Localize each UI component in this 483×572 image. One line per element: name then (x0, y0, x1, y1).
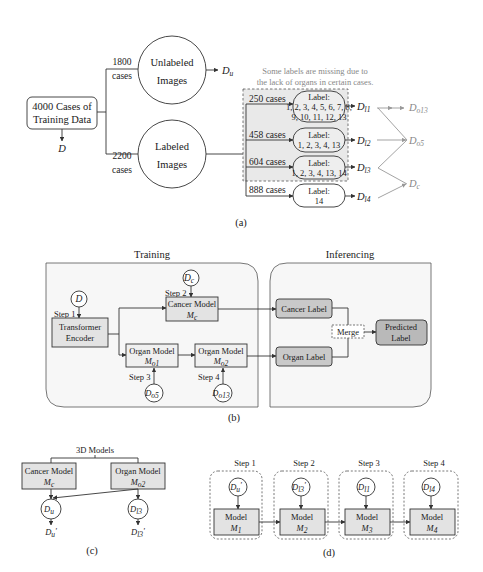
svg-text:1, 2, 3, 4, 13, 14: 1, 2, 3, 4, 13, 14 (291, 168, 347, 178)
svg-text:Step 1: Step 1 (234, 458, 256, 468)
svg-text:M1: M1 (230, 523, 242, 535)
caption-a: (a) (235, 217, 247, 229)
svg-text:Label:: Label: (308, 130, 330, 140)
svg-text:Step 3: Step 3 (358, 458, 380, 468)
step4-label: Step 4 (198, 372, 220, 382)
labeled-count: 2200 (113, 151, 132, 161)
svg-text:Mc: Mc (43, 477, 55, 489)
labeled-images-node (138, 120, 206, 188)
step-group-2: Step 2 Dl3' Model M2 (274, 458, 328, 539)
training-data-line2: Training Data (33, 114, 92, 125)
missing-labels-note-line1: Some labels are missing due to (262, 66, 368, 76)
panel-d: Step 1 Du' Model M1 Step 2 Dl3' Model M2… (210, 458, 458, 559)
labeled-line2: Images (157, 159, 187, 170)
svg-text:M4: M4 (426, 523, 438, 535)
svg-text:Cancer Model: Cancer Model (168, 299, 217, 309)
do5-label: Do5 (408, 135, 424, 148)
svg-text:Encoder: Encoder (66, 333, 94, 343)
group3-cases: 604 cases (249, 157, 286, 167)
svg-text:Organ Model: Organ Model (115, 466, 161, 476)
input-d: D (75, 294, 83, 304)
svg-text:Mo2: Mo2 (213, 356, 229, 368)
dc-label: Dc (408, 178, 421, 191)
caption-b: (b) (228, 412, 241, 424)
dl4-label: Dl4 (356, 191, 371, 204)
unlabeled-line2: Images (157, 75, 187, 86)
dl1-label: Dl1 (356, 101, 370, 114)
labeled-unit: cases (112, 165, 132, 175)
label-group-4: 888 cases Label: 14 Dl4 (246, 184, 371, 207)
svg-text:M3: M3 (361, 523, 373, 535)
dl3-node: Dl3 (129, 504, 142, 516)
group2-cases: 458 cases (249, 130, 286, 140)
svg-text:Label:: Label: (308, 158, 330, 168)
svg-text:Model: Model (225, 512, 248, 522)
svg-text:Predicted: Predicted (385, 322, 418, 332)
svg-text:Model: Model (356, 512, 379, 522)
group4-cases: 888 cases (249, 185, 286, 195)
svg-text:Dl4: Dl4 (422, 482, 435, 494)
inferencing-title: Inferencing (326, 249, 375, 260)
du-prime: Du' (44, 526, 57, 539)
svg-text:Label: Label (391, 333, 411, 343)
svg-text:1, 2, 3, 4, 5, 6, 7, 8,: 1, 2, 3, 4, 5, 6, 7, 8, (286, 102, 352, 112)
dataset-d-label: D (57, 143, 66, 154)
svg-text:Label:: Label: (308, 186, 330, 196)
panel-b: Training Inferencing D Step 1 Transforme… (46, 249, 431, 424)
du-node: Du (43, 504, 54, 516)
unlabeled-unit: cases (112, 71, 132, 81)
do13-node: Do13 (211, 388, 230, 400)
svg-text:Mo1: Mo1 (144, 356, 160, 368)
du-label: Du (221, 65, 234, 78)
dl2-label: Dl2 (356, 135, 371, 148)
svg-text:Model: Model (291, 512, 314, 522)
svg-text:Dl1: Dl1 (357, 482, 370, 494)
step-group-1: Step 1 Du' Model M1 (210, 458, 262, 539)
svg-text:Organ Model: Organ Model (198, 346, 244, 356)
svg-text:Organ Label: Organ Label (283, 352, 326, 362)
svg-text:M2: M2 (296, 523, 308, 535)
do5-node: Do5 (144, 388, 159, 400)
step2-label: Step 2 (165, 288, 187, 298)
svg-text:Step 4: Step 4 (423, 458, 445, 468)
step3-label: Step 3 (129, 372, 151, 382)
do13-label: Do13 (408, 102, 428, 115)
svg-text:Transformer: Transformer (59, 322, 101, 332)
step-group-3: Step 3 Dl1 Model M3 (339, 458, 393, 539)
group1-cases: 250 cases (249, 94, 286, 104)
caption-c: (c) (86, 545, 98, 557)
training-data-line1: 4000 Cases of (32, 101, 92, 112)
step1-label: Step 1 (54, 309, 76, 319)
dl3-label: Dl3 (356, 162, 371, 175)
svg-text:Cancer Label: Cancer Label (281, 304, 327, 314)
panel-c: 3D Models Cancer Model Mc Organ Model Mo… (22, 445, 165, 557)
missing-labels-note-line2: the lack of organs in certain cases. (257, 77, 374, 87)
step-group-4: Step 4 Dl4 Model M4 (404, 458, 458, 539)
dl3-prime: Dl3' (130, 526, 145, 539)
svg-text:Mc: Mc (186, 310, 198, 322)
labeled-line1: Labeled (155, 141, 190, 152)
figure: 4000 Cases of Training Data D 1800 cases… (0, 0, 483, 572)
unlabeled-images-node (138, 36, 206, 104)
svg-text:Mo2: Mo2 (130, 477, 146, 489)
svg-text:Label:: Label: (308, 92, 330, 102)
svg-text:Merge: Merge (337, 327, 359, 337)
unlabeled-line1: Unlabeled (150, 57, 194, 68)
caption-d: (d) (323, 547, 336, 559)
svg-text:9, 10, 11, 12, 13: 9, 10, 11, 12, 13 (292, 112, 347, 122)
svg-text:Cancer Model: Cancer Model (25, 466, 74, 476)
panel-a: 4000 Cases of Training Data D 1800 cases… (27, 36, 428, 229)
unlabeled-count: 1800 (113, 57, 132, 67)
svg-text:Model: Model (421, 512, 444, 522)
training-title: Training (134, 249, 171, 260)
svg-text:14: 14 (315, 196, 324, 206)
svg-text:Organ Model: Organ Model (129, 346, 175, 356)
3d-models-title: 3D Models (76, 445, 114, 455)
svg-text:Step 2: Step 2 (293, 458, 315, 468)
svg-text:1, 2, 3, 4, 13: 1, 2, 3, 4, 13 (298, 140, 341, 150)
